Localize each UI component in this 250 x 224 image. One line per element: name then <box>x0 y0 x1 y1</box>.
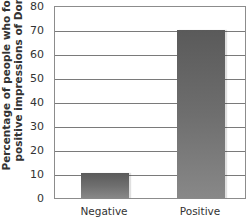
y-axis-label-line-1: Percentage of people who formed <box>0 0 12 182</box>
y-tick-label: 80 <box>14 0 44 13</box>
y-tick-label: 70 <box>14 24 44 37</box>
bar-positive <box>177 30 225 198</box>
y-tick-label: 30 <box>14 120 44 133</box>
y-tick-label: 0 <box>14 192 44 205</box>
bar-negative <box>81 173 129 198</box>
y-tick-label: 10 <box>14 168 44 181</box>
x-tick-label: Negative <box>64 205 144 217</box>
y-tick-label: 60 <box>14 48 44 61</box>
y-tick-label: 50 <box>14 72 44 85</box>
plot-area <box>54 6 246 199</box>
x-tick-label: Positive <box>160 205 240 217</box>
y-tick-label: 20 <box>14 144 44 157</box>
y-tick-label: 40 <box>14 96 44 109</box>
